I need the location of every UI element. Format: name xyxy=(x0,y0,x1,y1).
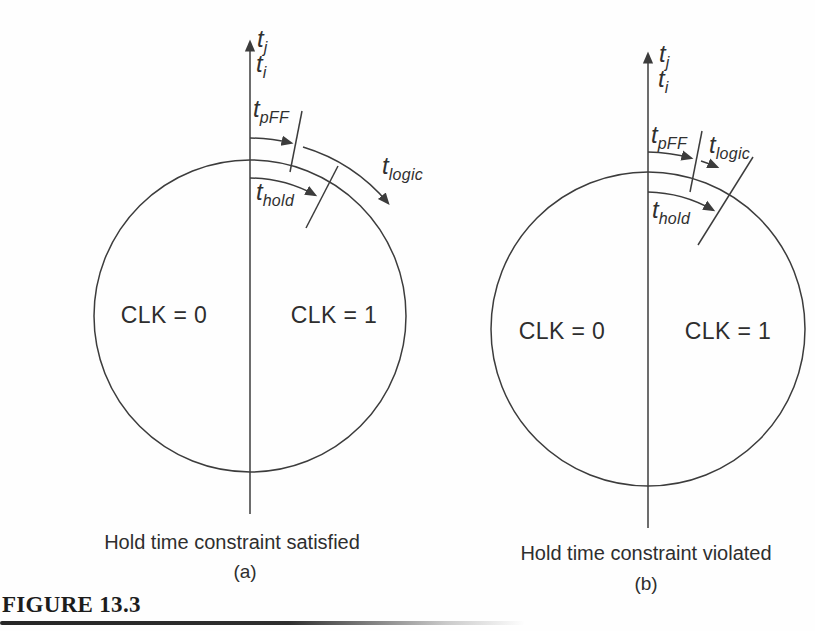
tpff-base-a: t xyxy=(253,95,260,122)
thold-base-b: t xyxy=(652,196,659,223)
tpff-label-a: tpFF xyxy=(253,97,289,126)
figure-rule xyxy=(0,621,525,625)
tpff-arc-b xyxy=(648,152,691,158)
figure-page: tj ti tpFF tlogic thold CLK = 0 CLK = 1 … xyxy=(0,0,815,631)
sub-label-b: (b) xyxy=(634,573,657,595)
tpff-tick-a xyxy=(290,111,302,172)
tlogic-label-b: tlogic xyxy=(709,133,750,162)
ti-label-a: ti xyxy=(256,52,267,81)
caption-b: Hold time constraint violated xyxy=(520,542,771,565)
tlogic-base-a: t xyxy=(382,152,389,179)
ti-sub-b: i xyxy=(665,79,669,96)
clk0-label-a: CLK = 0 xyxy=(121,302,208,329)
ti-label-b: ti xyxy=(658,67,669,96)
ti-sub-a: i xyxy=(263,64,267,81)
tlogic-base-b: t xyxy=(709,131,716,158)
clk1-label-a: CLK = 1 xyxy=(291,302,378,329)
tlogic-label-a: tlogic xyxy=(382,154,423,183)
figure-number-label: FIGURE 13.3 xyxy=(2,592,141,618)
tpff-base-b: t xyxy=(651,121,658,148)
panel-a-strokes xyxy=(94,42,406,514)
tlogic-sub-b: logic xyxy=(716,145,750,162)
clk0-label-b: CLK = 0 xyxy=(519,318,606,345)
ti-base-a: t xyxy=(256,50,263,77)
panel-b-strokes xyxy=(491,54,805,528)
tpff-arc-a xyxy=(250,138,291,143)
tlogic-sub-a: logic xyxy=(389,166,423,183)
thold-base-a: t xyxy=(256,178,263,205)
tpff-sub-b: pFF xyxy=(658,135,687,152)
sub-label-a: (a) xyxy=(233,561,256,583)
ti-base-b: t xyxy=(658,65,665,92)
caption-a: Hold time constraint satisfied xyxy=(104,531,360,554)
tj-base-b: t xyxy=(659,40,666,67)
tpff-label-b: tpFF xyxy=(651,123,687,152)
arrival-tick-b xyxy=(698,157,753,245)
tj-base-a: t xyxy=(257,25,264,52)
thold-label-b: thold xyxy=(652,198,690,227)
thold-sub-b: hold xyxy=(659,210,690,227)
tlogic-arc-b xyxy=(701,161,717,167)
tpff-tick-b xyxy=(690,131,702,192)
arrival-tick-a xyxy=(306,166,338,228)
thold-sub-a: hold xyxy=(263,192,294,209)
tpff-sub-a: pFF xyxy=(260,109,289,126)
thold-label-a: thold xyxy=(256,180,294,209)
clk1-label-b: CLK = 1 xyxy=(685,318,772,345)
